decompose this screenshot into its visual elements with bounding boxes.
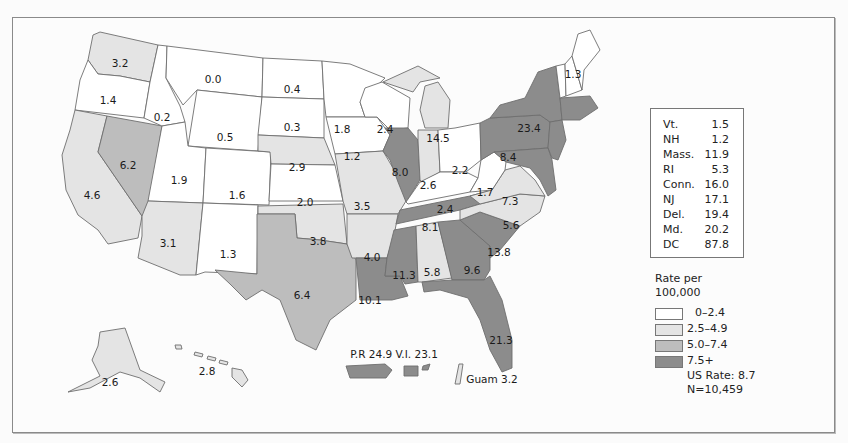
state-new-york — [490, 66, 562, 122]
svg-text:8.4: 8.4 — [500, 151, 517, 163]
svg-text:1.3: 1.3 — [565, 68, 582, 80]
svg-text:3.8: 3.8 — [310, 235, 327, 247]
us-rate: US Rate: 8.7 — [687, 369, 755, 383]
svg-text:1.8: 1.8 — [334, 123, 351, 135]
svg-text:2.6: 2.6 — [420, 179, 437, 191]
sample-size: N=10,459 — [687, 383, 743, 397]
svg-text:2.4: 2.4 — [437, 203, 454, 215]
svg-text:9.6: 9.6 — [464, 264, 481, 276]
ne-row: NJ17.1 — [663, 193, 737, 207]
svg-text:3.5: 3.5 — [354, 200, 371, 212]
svg-text:0.4: 0.4 — [284, 83, 301, 95]
legend-label-2: 5.0–7.4 — [687, 338, 728, 352]
legend-swatch-0 — [655, 308, 683, 320]
svg-text:0.0: 0.0 — [205, 73, 222, 85]
northeast-values-table: Vt.1.5 NH1.2 Mass.11.9 RI5.3 Conn.16.0 N… — [650, 108, 744, 258]
ne-row: Md.20.2 — [663, 223, 737, 237]
legend-title: Rate per — [655, 272, 702, 286]
svg-text:23.4: 23.4 — [517, 122, 541, 134]
ne-row: RI5.3 — [663, 163, 737, 177]
svg-text:1.6: 1.6 — [229, 189, 246, 201]
svg-text:3.1: 3.1 — [160, 237, 177, 249]
svg-text:13.8: 13.8 — [487, 246, 510, 258]
svg-text:2.4: 2.4 — [377, 123, 394, 135]
svg-text:2.2: 2.2 — [452, 164, 469, 176]
legend-swatch-3 — [655, 356, 683, 368]
territory-puerto-rico — [346, 364, 392, 378]
svg-text:P.R 24.9 V.I. 23.1: P.R 24.9 V.I. 23.1 — [350, 348, 438, 360]
ne-row: DC87.8 — [663, 238, 737, 252]
svg-text:4.0: 4.0 — [364, 251, 381, 263]
svg-text:5.8: 5.8 — [424, 266, 441, 278]
territory-guam — [455, 364, 463, 384]
svg-text:4.6: 4.6 — [84, 189, 101, 201]
svg-text:1.7: 1.7 — [477, 186, 494, 198]
ne-row: Del.19.4 — [663, 208, 737, 222]
svg-text:5.6: 5.6 — [503, 219, 520, 231]
ne-row: Vt.1.5 — [663, 118, 737, 132]
legend-swatch-1 — [655, 324, 683, 336]
territory-virgin-islands — [404, 364, 430, 376]
svg-text:2.9: 2.9 — [289, 161, 306, 173]
ne-row: Conn.16.0 — [663, 178, 737, 192]
svg-text:14.5: 14.5 — [426, 132, 449, 144]
svg-text:1.3: 1.3 — [220, 248, 237, 260]
svg-text:0.3: 0.3 — [284, 121, 301, 133]
svg-text:3.2: 3.2 — [112, 57, 129, 69]
state-new-mexico — [196, 203, 258, 275]
legend-swatch-2 — [655, 340, 683, 352]
legend-title-2: 100,000 — [655, 286, 701, 300]
svg-text:Guam 3.2: Guam 3.2 — [466, 373, 518, 385]
svg-text:1.4: 1.4 — [100, 94, 117, 106]
svg-text:10.1: 10.1 — [358, 294, 381, 306]
svg-text:6.4: 6.4 — [294, 289, 311, 301]
svg-text:2.8: 2.8 — [199, 365, 216, 377]
ne-row: NH1.2 — [663, 133, 737, 147]
state-new-england-south — [560, 96, 598, 120]
svg-text:11.3: 11.3 — [392, 269, 415, 281]
legend-label-0: 0–2.4 — [695, 306, 725, 320]
svg-text:8.0: 8.0 — [392, 166, 409, 178]
svg-text:1.9: 1.9 — [171, 174, 188, 186]
svg-text:0.5: 0.5 — [217, 131, 234, 143]
ne-row: Mass.11.9 — [663, 148, 737, 162]
svg-text:21.3: 21.3 — [489, 334, 512, 346]
legend-label-1: 2.5–4.9 — [687, 322, 728, 336]
svg-text:6.2: 6.2 — [120, 159, 137, 171]
svg-text:7.3: 7.3 — [502, 195, 519, 207]
svg-text:2.0: 2.0 — [297, 196, 314, 208]
legend-label-3: 7.5+ — [687, 354, 714, 368]
svg-text:1.2: 1.2 — [344, 150, 361, 162]
svg-text:0.2: 0.2 — [154, 111, 171, 123]
svg-text:8.1: 8.1 — [422, 221, 439, 233]
svg-text:2.6: 2.6 — [102, 376, 119, 388]
